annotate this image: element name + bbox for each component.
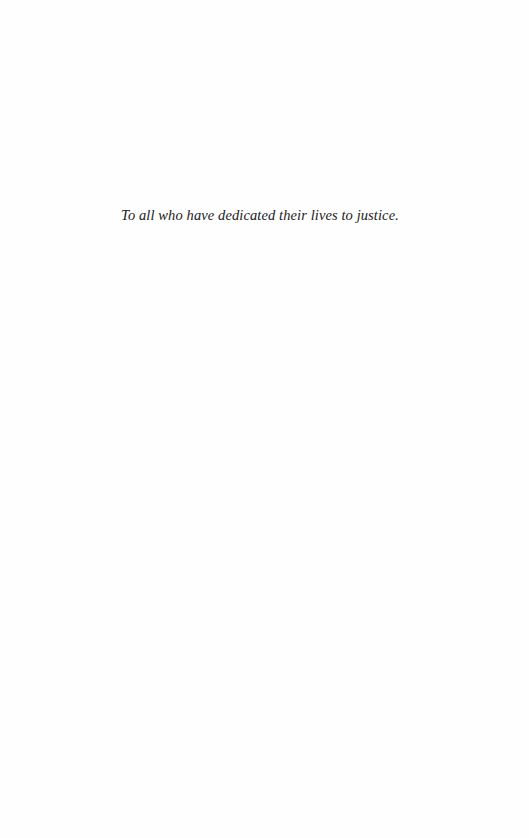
book-page: To all who have dedicated their lives to…: [0, 0, 529, 838]
dedication-text: To all who have dedicated their lives to…: [0, 205, 520, 225]
